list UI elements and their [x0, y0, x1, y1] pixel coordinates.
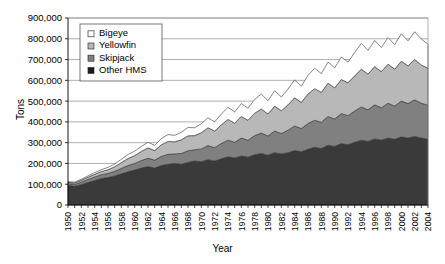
svg-text:800,000: 800,000	[28, 33, 62, 44]
svg-text:2000: 2000	[397, 212, 407, 231]
stacked-area-chart: Tons Year 0100,000200,000300,000400,0005…	[0, 0, 445, 264]
svg-text:1974: 1974	[223, 212, 233, 231]
x-axis-ticks: 1950195219541956195819601962196419661968…	[63, 205, 433, 231]
svg-text:1978: 1978	[250, 212, 260, 231]
svg-text:1992: 1992	[343, 212, 353, 231]
svg-text:1984: 1984	[290, 212, 300, 231]
svg-text:Yellowfin: Yellowfin	[99, 39, 136, 50]
svg-text:1994: 1994	[357, 212, 367, 231]
svg-text:1954: 1954	[90, 212, 100, 231]
svg-text:1950: 1950	[63, 212, 73, 231]
svg-text:Other HMS: Other HMS	[99, 64, 147, 75]
svg-text:Bigeye: Bigeye	[99, 27, 128, 38]
svg-text:300,000: 300,000	[28, 137, 62, 148]
svg-text:1996: 1996	[370, 212, 380, 231]
svg-text:1990: 1990	[330, 212, 340, 231]
svg-text:1980: 1980	[263, 212, 273, 231]
y-axis-ticks: 0100,000200,000300,000400,000500,000600,…	[28, 12, 68, 210]
svg-text:1958: 1958	[117, 212, 127, 231]
svg-text:1964: 1964	[157, 212, 167, 231]
svg-text:1956: 1956	[103, 212, 113, 231]
svg-text:1998: 1998	[383, 212, 393, 231]
svg-text:400,000: 400,000	[28, 116, 62, 127]
svg-text:1972: 1972	[210, 212, 220, 231]
svg-text:1966: 1966	[170, 212, 180, 231]
svg-text:100,000: 100,000	[28, 179, 62, 190]
svg-text:Skipjack: Skipjack	[99, 52, 135, 63]
svg-text:700,000: 700,000	[28, 54, 62, 65]
svg-text:600,000: 600,000	[28, 75, 62, 86]
svg-text:1970: 1970	[197, 212, 207, 231]
svg-text:200,000: 200,000	[28, 158, 62, 169]
svg-text:2002: 2002	[410, 212, 420, 231]
chart-legend: BigeyeYellowfinSkipjackOther HMS	[80, 24, 162, 81]
svg-text:1982: 1982	[277, 212, 287, 231]
svg-text:1962: 1962	[143, 212, 153, 231]
svg-text:1968: 1968	[183, 212, 193, 231]
svg-text:0: 0	[57, 199, 62, 210]
svg-text:1952: 1952	[77, 212, 87, 231]
plot-canvas: 0100,000200,000300,000400,000500,000600,…	[0, 0, 445, 264]
svg-text:1986: 1986	[303, 212, 313, 231]
svg-text:1960: 1960	[130, 212, 140, 231]
svg-text:2004: 2004	[423, 212, 433, 231]
svg-text:1988: 1988	[317, 212, 327, 231]
svg-text:900,000: 900,000	[28, 12, 62, 23]
svg-text:1976: 1976	[237, 212, 247, 231]
svg-text:500,000: 500,000	[28, 96, 62, 107]
